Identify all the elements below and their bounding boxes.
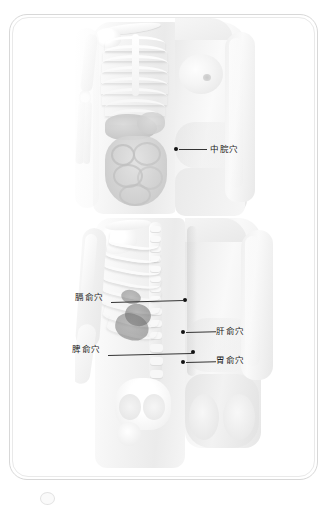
leader-line-zhongwan <box>179 149 207 150</box>
acupoint-dot-weishu[interactable] <box>181 360 185 364</box>
front-anatomical-half <box>75 18 175 218</box>
panel-back-torso: 膈俞穴 肝俞穴 脾俞穴 胃俞穴 <box>13 218 314 480</box>
acupoint-label-ganshu: 肝俞穴 <box>216 326 245 336</box>
back-skin-half <box>185 218 295 480</box>
illustration-card: 中脘穴 <box>9 14 318 480</box>
acupoint-label-zhongwan: 中脘穴 <box>210 144 239 154</box>
acupoint-dot-ganshu[interactable] <box>181 330 185 334</box>
card-inner-frame: 中脘穴 <box>12 17 315 477</box>
front-skin-half <box>175 18 283 218</box>
acupoint-label-weishu: 胃俞穴 <box>216 355 245 365</box>
panel-front-torso: 中脘穴 <box>13 18 314 218</box>
acupoint-label-geshu: 膈俞穴 <box>75 292 104 302</box>
acupoint-dot-zhongwan[interactable] <box>174 147 178 151</box>
page-corner-mark <box>40 492 55 505</box>
acupoint-label-pishu: 脾俞穴 <box>72 344 101 354</box>
